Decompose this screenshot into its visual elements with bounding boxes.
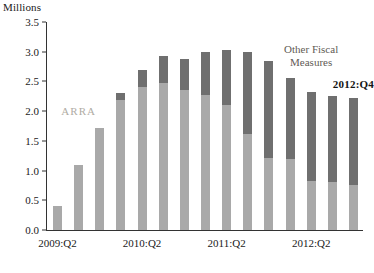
y-axis-unit-label: Millions [3,1,41,13]
bar-segment-arra [201,95,210,230]
bar [243,22,252,230]
bar-segment-other-fiscal [116,93,125,100]
x-axis-tick-label: 2011:Q2 [208,237,246,249]
annotation-line: Other Fiscal [284,43,338,56]
bar-segment-arra [74,165,83,230]
bar [349,22,358,230]
annotation-line: Measures [284,56,338,69]
bar-segment-arra [53,206,62,230]
x-axis-tick-label: 2010:Q2 [123,237,162,249]
annotation-arra: ARRA [61,105,96,118]
y-axis-tick-label: 0.0 [25,224,46,236]
bar-segment-arra [243,134,252,230]
bar [95,22,104,230]
bar-segment-other-fiscal [180,59,189,90]
x-axis-tick-label: 2012:Q2 [292,237,331,249]
y-axis-tick-label: 3.0 [25,46,46,58]
x-axis-tick-label: 2009:Q2 [38,237,77,249]
bar-segment-arra [116,100,125,230]
annotation-last: 2012:Q4 [333,78,374,91]
bar-segment-other-fiscal [264,61,273,158]
bar-segment-arra [286,159,295,230]
bar-segment-arra [349,185,358,230]
bar-segment-other-fiscal [243,52,252,134]
bar-segment-other-fiscal [328,96,337,182]
bar [53,22,62,230]
bar-segment-arra [138,87,147,230]
y-axis-tick-label: 1.5 [25,135,46,147]
bar-segment-arra [264,158,273,231]
bar-segment-other-fiscal [222,50,231,105]
y-axis-tick-label: 1.0 [25,165,46,177]
bar-segment-arra [180,90,189,230]
y-axis-tick-label: 2.0 [25,105,46,117]
annotation-line: ARRA [61,105,96,118]
annotation-other: Other FiscalMeasures [284,43,338,69]
bar-segment-other-fiscal [201,52,210,95]
bar-segment-other-fiscal [349,98,358,185]
bar-segment-arra [95,128,104,230]
bar [74,22,83,230]
annotation-line: 2012:Q4 [333,78,374,91]
bar [116,22,125,230]
bar [201,22,210,230]
bar-segment-other-fiscal [307,92,316,181]
bar-segment-arra [222,105,231,230]
bar [180,22,189,230]
plot-area: 0.00.51.01.52.02.53.03.5ARRAOther Fiscal… [46,22,363,230]
y-axis-tick-label: 0.5 [25,194,46,206]
bar [159,22,168,230]
bar-segment-arra [328,182,337,230]
bar-segment-other-fiscal [286,78,295,158]
bar-segment-arra [159,83,168,230]
x-axis-line [46,230,363,231]
bar [138,22,147,230]
bar-segment-other-fiscal [159,56,168,83]
y-axis-tick-label: 2.5 [25,75,46,87]
bar [222,22,231,230]
bar-segment-other-fiscal [138,70,147,88]
y-axis-tick-label: 3.5 [25,16,46,28]
bar [264,22,273,230]
bar-segment-arra [307,181,316,230]
